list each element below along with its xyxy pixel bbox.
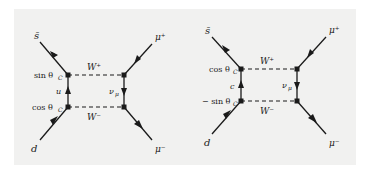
label-w-minus: W⁻ [260, 106, 274, 116]
diagram-right: s̄ d μ⁺ μ⁻ W⁺ W⁻ c ν μ cos θ C − sin θ C [202, 25, 340, 148]
label-w-minus: W⁻ [87, 112, 101, 122]
arrow-down-icon [121, 88, 127, 96]
label-coupling-top-sub: C [58, 74, 63, 81]
label-coupling-top: sin θ [34, 71, 53, 80]
arrow-icon [307, 49, 314, 58]
label-sbar: s̄ [34, 30, 40, 41]
feynman-diagrams: s̄ d μ⁺ μ⁻ W⁺ W⁻ u ν μ sin θ C cos θ C s… [0, 0, 367, 172]
diagram-left: s̄ d μ⁺ μ⁻ W⁺ W⁻ u ν μ sin θ C cos θ C [31, 30, 166, 154]
label-d: d [204, 137, 210, 148]
vertex [66, 73, 71, 78]
label-w-plus: W⁺ [260, 56, 274, 66]
label-coupling-top: cos θ [209, 65, 230, 74]
label-c: c [230, 82, 235, 91]
label-w-plus: W⁺ [87, 62, 101, 72]
arrow-up-icon [65, 86, 71, 94]
arrow-up-icon [238, 80, 244, 88]
label-sbar: s̄ [205, 25, 211, 36]
label-coupling-bottom: − sin θ [202, 97, 231, 106]
label-nu: ν [109, 87, 114, 96]
vertex [239, 99, 244, 104]
label-nu-sub: μ [115, 90, 119, 98]
arrow-down-icon [294, 82, 300, 90]
label-u: u [56, 87, 61, 96]
vertex [122, 105, 127, 110]
label-mu-plus: μ⁺ [155, 32, 166, 42]
vertex [295, 99, 300, 104]
vertex [122, 73, 127, 78]
label-d: d [31, 143, 37, 154]
label-mu-minus: μ⁻ [329, 138, 340, 148]
label-mu-plus: μ⁺ [329, 25, 340, 35]
label-mu-minus: μ⁻ [155, 144, 166, 154]
label-nu: ν [282, 81, 287, 90]
label-coupling-bottom: cos θ [32, 103, 53, 112]
label-nu-sub: μ [288, 84, 292, 92]
vertex [295, 67, 300, 72]
label-coupling-top-sub: C [233, 68, 238, 75]
label-coupling-bottom-sub: C [58, 106, 63, 113]
label-coupling-bottom-sub: C [233, 100, 238, 107]
vertex [239, 67, 244, 72]
arrow-icon [134, 55, 141, 64]
vertex [66, 105, 71, 110]
